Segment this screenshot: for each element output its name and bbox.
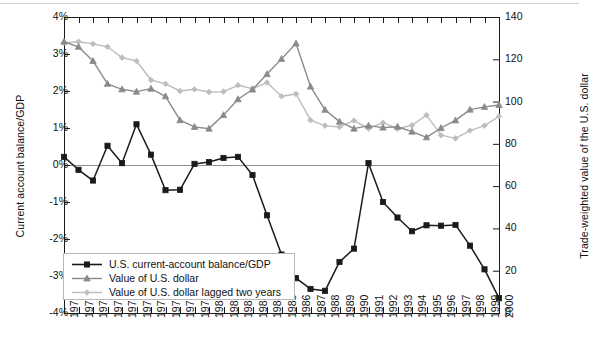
data-point <box>221 89 227 95</box>
data-point <box>351 246 356 251</box>
data-point <box>163 81 169 87</box>
data-point <box>119 161 124 166</box>
data-point <box>424 223 429 228</box>
legend-label: U.S. current-account balance/GDP <box>109 258 271 271</box>
data-point <box>482 267 487 272</box>
data-point <box>293 40 299 46</box>
data-point <box>307 83 313 89</box>
series-1 <box>61 38 502 139</box>
data-point <box>221 155 226 160</box>
data-point <box>351 118 357 124</box>
data-point <box>453 136 459 142</box>
data-point <box>235 82 241 88</box>
legend-marker <box>84 290 90 296</box>
data-point <box>438 223 443 228</box>
data-point <box>76 167 81 172</box>
data-point <box>308 286 313 291</box>
data-point <box>337 259 342 264</box>
data-point <box>496 296 501 301</box>
legend-item: U.S. current-account balance/GDP <box>70 258 288 271</box>
legend-marker <box>84 262 89 267</box>
legend-marker-triangle-icon <box>70 272 104 285</box>
data-point <box>308 117 314 123</box>
data-point <box>177 88 183 94</box>
data-point <box>192 87 198 93</box>
data-point <box>61 38 67 44</box>
data-point <box>250 172 255 177</box>
data-point <box>395 215 400 220</box>
data-point <box>365 122 371 128</box>
data-point <box>206 159 211 164</box>
data-point <box>134 122 139 127</box>
data-point <box>105 143 110 148</box>
data-point <box>293 91 299 97</box>
data-point <box>148 152 153 157</box>
data-point <box>235 154 240 159</box>
legend-marker-square-icon <box>70 258 104 271</box>
data-point <box>163 188 168 193</box>
data-point <box>322 123 328 129</box>
data-point <box>177 187 182 192</box>
data-point <box>90 41 96 47</box>
data-point <box>453 222 458 227</box>
legend-marker-diamond-icon <box>70 286 104 299</box>
data-point <box>322 288 327 293</box>
y-axis-right-title: Trade-weighted value of the U.S. dollar <box>578 56 590 276</box>
data-point <box>467 243 472 248</box>
data-point <box>90 178 95 183</box>
data-point <box>192 161 197 166</box>
legend-label: Value of U.S. dollar lagged two years <box>109 286 281 299</box>
data-point <box>409 229 414 234</box>
legend-label: Value of U.S. dollar <box>109 272 199 285</box>
data-point <box>467 128 473 134</box>
data-point <box>235 96 241 102</box>
data-point <box>337 124 343 130</box>
legend-item: Value of U.S. dollar lagged two years <box>70 286 288 299</box>
data-point <box>366 161 371 166</box>
data-point <box>380 199 385 204</box>
data-point <box>61 154 66 159</box>
legend-item: Value of U.S. dollar <box>70 272 288 285</box>
data-point <box>206 89 212 95</box>
data-point <box>264 213 269 218</box>
chart-legend: U.S. current-account balance/GDPValue of… <box>63 253 295 300</box>
data-point <box>148 85 154 91</box>
